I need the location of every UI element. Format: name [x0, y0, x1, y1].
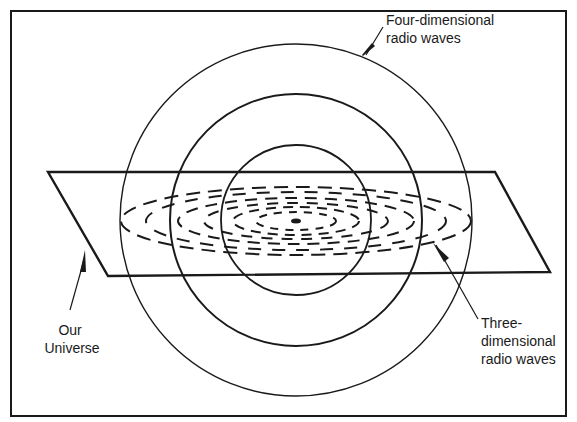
source-point — [291, 219, 301, 224]
three-dimensional-label-line-2: dimensional — [481, 333, 556, 349]
three-dimensional-label-line-3: radio waves — [481, 351, 556, 367]
four-dimensional-label-line-2: radio waves — [386, 30, 461, 46]
three-dimensional-label: Three- dimensional radio waves — [481, 315, 560, 367]
diagram-canvas: Four-dimensional radio waves Our Univers… — [0, 0, 577, 422]
three-dimensional-arrow — [433, 243, 478, 319]
our-universe-label: Our Universe — [44, 322, 99, 356]
three-dimensional-label-line-1: Three- — [481, 315, 523, 331]
four-dimensional-label-line-1: Four-dimensional — [386, 12, 494, 28]
four-dimensional-arrow — [362, 27, 383, 56]
our-universe-label-line-1: Our — [58, 322, 82, 338]
our-universe-label-line-2: Universe — [44, 340, 99, 356]
four-dimensional-label: Four-dimensional radio waves — [386, 12, 498, 46]
our-universe-arrow — [70, 250, 86, 310]
